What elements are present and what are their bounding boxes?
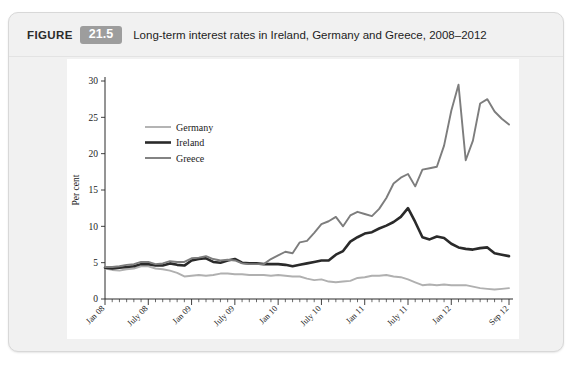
y-tick-label: 0	[93, 294, 98, 304]
legend-label-greece: Greece	[176, 153, 205, 164]
figure-title: Long-term interest rates in Ireland, Ger…	[133, 29, 487, 41]
y-axis-title: Per cent	[71, 174, 81, 205]
y-tick-label: 25	[89, 113, 99, 123]
y-tick-label: 20	[89, 149, 99, 159]
y-tick-label: 10	[89, 222, 99, 232]
legend-label-ireland: Ireland	[176, 137, 204, 148]
x-tick-label: Sep 12	[487, 303, 511, 327]
series-line-germany	[105, 266, 509, 289]
y-tick-label: 5	[93, 258, 98, 268]
series-line-ireland	[105, 208, 509, 268]
x-tick-label: Jan 09	[170, 303, 193, 326]
figure-word-label: FIGURE	[27, 29, 73, 41]
line-chart: 051015202530Per centJan 08July 08Jan 09J…	[67, 59, 519, 339]
figure-number-badge: 21.5	[80, 26, 122, 44]
x-tick-label: Jan 08	[84, 303, 107, 326]
legend-label-germany: Germany	[176, 122, 213, 133]
x-tick-label: Jan 10	[257, 303, 280, 326]
series-line-greece	[105, 85, 509, 267]
chart-plot-panel: 051015202530Per centJan 08July 08Jan 09J…	[67, 59, 519, 339]
x-tick-label: July 08	[125, 303, 150, 328]
x-tick-label: July 10	[298, 303, 323, 328]
figure-header: FIGURE 21.5 Long-term interest rates in …	[9, 13, 563, 57]
figure-card: FIGURE 21.5 Long-term interest rates in …	[8, 12, 564, 352]
y-tick-label: 15	[89, 185, 99, 195]
x-tick-label: July 11	[385, 303, 410, 328]
y-tick-label: 30	[89, 76, 99, 86]
x-tick-label: July 09	[211, 303, 236, 328]
x-tick-label: Jan 12	[430, 303, 453, 326]
x-tick-label: Jan 11	[344, 303, 367, 326]
